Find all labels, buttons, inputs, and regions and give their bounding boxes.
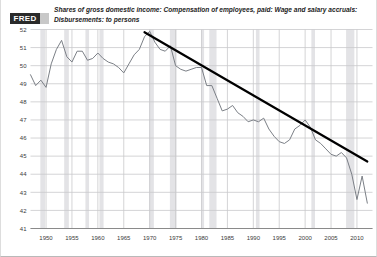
x-axis-tick-label: 2000: [298, 235, 312, 241]
recession-band: [64, 30, 69, 229]
y-axis-tick-label: 44: [20, 171, 27, 177]
x-axis-tick-labels: 1950195519601965197019751980198519901995…: [39, 235, 364, 241]
y-axis-tick-label: 41: [20, 226, 27, 232]
recession-band: [40, 30, 45, 229]
y-axis-tick-label: 47: [20, 117, 27, 123]
y-axis-tick-label: 45: [20, 153, 27, 159]
y-axis-tick-label: 48: [20, 99, 27, 105]
y-axis-tick-labels: 414243444546474849505152: [20, 27, 27, 232]
x-axis-tick-label: 2005: [324, 235, 338, 241]
recession-band: [209, 30, 216, 229]
plot-area: 414243444546474849505152 195019551960196…: [1, 0, 377, 257]
x-axis-tick-label: 1955: [65, 235, 79, 241]
recession-band: [99, 30, 103, 229]
line-chart-svg: 414243444546474849505152 195019551960196…: [1, 0, 377, 257]
x-axis-tick-label: 1990: [247, 235, 261, 241]
y-axis-tick-label: 42: [20, 208, 27, 214]
recession-band: [346, 30, 354, 229]
x-axis-tick-label: 1950: [39, 235, 53, 241]
fred-chart-figure: FRED Shares of gross domestic income: Co…: [0, 0, 377, 257]
x-axis-tick-label: 1995: [273, 235, 287, 241]
y-axis-tick-label: 49: [20, 81, 27, 87]
recession-band: [256, 30, 260, 229]
x-axis-tick-label: 1960: [91, 235, 105, 241]
y-axis-tick-label: 52: [20, 27, 27, 33]
data-series-line: [31, 31, 368, 203]
x-axis-tick-label: 1970: [143, 235, 157, 241]
y-axis-tick-label: 46: [20, 135, 27, 141]
y-axis-tick-label: 51: [20, 45, 27, 51]
y-axis-tick-label: 43: [20, 190, 27, 196]
x-axis-tick-label: 2010: [350, 235, 364, 241]
x-axis-tick-label: 1965: [117, 235, 131, 241]
x-axis-tick-label: 1980: [195, 235, 209, 241]
x-axis-tick-label: 1985: [221, 235, 235, 241]
y-axis-tick-label: 50: [20, 63, 27, 69]
x-axis-tick-label: 1975: [169, 235, 183, 241]
